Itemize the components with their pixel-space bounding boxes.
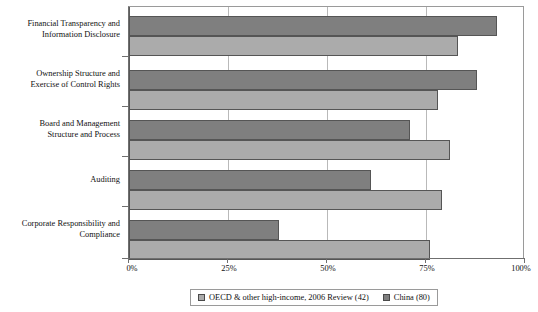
bar-china-board-management [129, 120, 410, 140]
category-label-line: Financial Transparency and [0, 18, 120, 29]
bar-china-corporate-responsibility [129, 220, 279, 240]
category-label-line: Corporate Responsibility and [0, 218, 120, 229]
chart-legend: OECD & other high-income, 2006 Review (4… [190, 289, 438, 306]
legend-item-china[interactable]: China (80) [383, 293, 430, 302]
category-axis-labels: Financial Transparency and Information D… [0, 6, 124, 259]
category-label-board-management: Board and Management Structure and Proce… [0, 118, 120, 140]
x-axis-tick-75 [425, 259, 426, 263]
category-label-ownership-structure: Ownership Structure and Exercise of Cont… [0, 68, 120, 90]
x-axis-tick-100 [524, 259, 525, 263]
bar-oecd-financial-transparency [129, 36, 458, 56]
y-axis-tick [122, 206, 128, 207]
category-label-line: Information Disclosure [0, 29, 120, 40]
bar-oecd-board-management [129, 140, 450, 160]
y-axis-tick [122, 56, 128, 57]
x-axis-tick-25 [227, 259, 228, 263]
bar-chart: Financial Transparency and Information D… [0, 0, 538, 312]
x-axis-label-100: 100% [511, 264, 531, 273]
legend-label-oecd: OECD & other high-income, 2006 Review (4… [209, 293, 369, 302]
legend-label-china: China (80) [394, 293, 430, 302]
legend-swatch-icon [383, 294, 390, 301]
category-label-corporate-responsibility: Corporate Responsibility and Compliance [0, 218, 120, 240]
plot-area [128, 6, 524, 259]
bar-china-financial-transparency [129, 16, 497, 36]
category-label-line: Structure and Process [0, 129, 120, 140]
bar-oecd-auditing [129, 190, 442, 210]
y-axis-tick [122, 106, 128, 107]
x-axis-tick-0 [128, 259, 129, 263]
bar-oecd-ownership-structure [129, 90, 438, 110]
bar-china-auditing [129, 170, 371, 190]
category-label-line: Exercise of Control Rights [0, 79, 120, 90]
category-label-line: Auditing [0, 174, 120, 185]
legend-item-oecd[interactable]: OECD & other high-income, 2006 Review (4… [198, 293, 369, 302]
category-label-line: Board and Management [0, 118, 120, 129]
category-label-financial-transparency: Financial Transparency and Information D… [0, 18, 120, 40]
category-label-line: Compliance [0, 229, 120, 240]
x-axis-tick-50 [326, 259, 327, 263]
x-axis-label-0: 0% [126, 264, 137, 273]
bar-oecd-corporate-responsibility [129, 240, 430, 260]
x-axis-label-50: 50% [320, 264, 335, 273]
legend-swatch-icon [198, 294, 205, 301]
category-label-line: Ownership Structure and [0, 68, 120, 79]
category-label-auditing: Auditing [0, 174, 120, 185]
bar-china-ownership-structure [129, 70, 477, 90]
x-axis-label-75: 75% [419, 264, 434, 273]
x-axis-label-25: 25% [221, 264, 236, 273]
y-axis-tick [122, 156, 128, 157]
